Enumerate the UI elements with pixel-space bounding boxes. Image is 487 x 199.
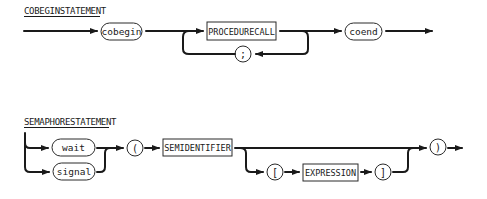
terminal-label: [ [272,167,278,178]
merge-line [97,148,110,172]
nonterminal-label: PROCEDURECALL [208,27,275,37]
terminal-label: ( [132,143,138,154]
terminal-rparen: ) [430,139,446,155]
terminal-rbracket: ] [375,164,391,180]
terminal-label: coend [349,26,378,37]
semaphore-statement-title: SEMAPHORESTATEMENT [24,117,117,127]
terminal-label: wait [62,142,85,153]
nonterminal-procedurecall: PROCEDURECALL [207,22,276,40]
branch-wait-arrow [25,143,48,148]
terminal-cobegin: cobegin [101,23,142,40]
terminal-label: ] [380,167,386,178]
nonterminal-label: EXPRESSION [305,168,356,178]
terminal-semicolon: ; [235,46,251,62]
syntax-diagrams: COBEGINSTATEMENT cobegin PROCEDURECALL ; [0,0,487,199]
terminal-label: signal [57,166,91,177]
cobegin-statement-title: COBEGINSTATEMENT [24,6,107,16]
nonterminal-label: SEMIDENTIFIER [164,143,231,153]
terminal-label: ) [435,142,441,153]
terminal-lbracket: [ [267,164,283,180]
terminal-label: ; [240,49,246,60]
terminal-signal: signal [53,163,95,180]
semaphore-statement-diagram: SEMAPHORESTATEMENT wait signal ( SEMIDEN… [24,117,462,181]
merge-index-line [393,148,413,172]
nonterminal-expression: EXPRESSION [303,164,358,181]
terminal-coend: coend [345,23,382,40]
cobegin-statement-diagram: COBEGINSTATEMENT cobegin PROCEDURECALL ; [24,6,432,62]
nonterminal-semidentifier: SEMIDENTIFIER [163,139,232,156]
terminal-lparen: ( [127,140,143,156]
branch-signal-arrow [25,133,49,172]
terminal-wait: wait [52,139,95,156]
branch-index-arrow [240,148,263,172]
terminal-label: cobegin [101,26,141,37]
